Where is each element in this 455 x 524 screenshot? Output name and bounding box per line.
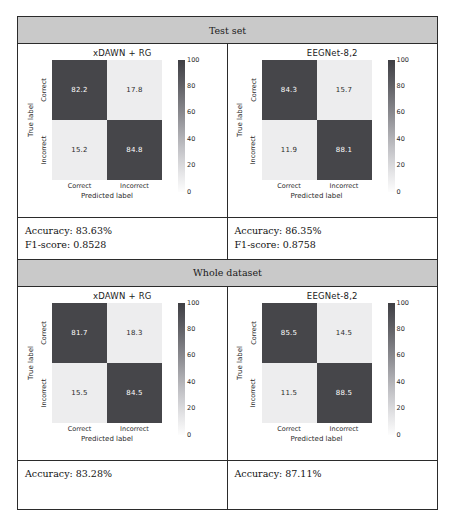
- accuracy-text-2: Accuracy: 83.28%: [25, 467, 220, 481]
- y-tick-1: Incorrect: [250, 136, 258, 165]
- colorbar-tick-labels-2: 100 80 60 40 20 0: [187, 298, 213, 440]
- x-axis-label-1: Predicted label: [262, 192, 372, 200]
- accuracy-text-0: Accuracy: 83.63%: [25, 224, 220, 238]
- colorbar-tick-60-2: 60: [187, 350, 195, 360]
- y-axis-label-3: True label: [234, 303, 248, 423]
- y-axis-label-2: True label: [24, 303, 38, 423]
- heatmap-cell-2-0-0: 81.7: [52, 303, 107, 363]
- heatmap-cell-2-1-0: 15.5: [52, 363, 107, 423]
- colorbar-tick-100-2: 100: [187, 298, 199, 308]
- metrics-row-whole-dataset: Accuracy: 83.28% Accuracy: 87.11%: [18, 461, 437, 509]
- heatmap-cell-3-0-0: 85.5: [262, 303, 317, 363]
- heatmap-cell-0-1-0: 15.2: [52, 120, 107, 180]
- plot-title-1: EEGNet-8,2: [272, 48, 394, 58]
- heatmap-cell-3-0-1: 14.5: [317, 303, 372, 363]
- colorbar-gradient-0: [178, 60, 185, 192]
- confusion-matrix-panel-1: EEGNet-8,2 True label Correct Incorrect …: [228, 44, 438, 217]
- colorbar-tick-100-0: 100: [187, 55, 199, 65]
- confusion-matrix-figure-3: EEGNet-8,2 True label Correct Incorrect …: [228, 287, 438, 460]
- colorbar-tick-80-3: 80: [397, 324, 405, 334]
- colorbar-tick-60-1: 60: [397, 107, 405, 117]
- heatmap-cell-1-0-1: 15.7: [317, 60, 372, 120]
- colorbar-tick-20-1: 20: [397, 160, 405, 170]
- accuracy-text-1: Accuracy: 86.35%: [235, 224, 431, 238]
- y-tick-0: Correct: [40, 321, 48, 345]
- colorbar-tick-80-2: 80: [187, 324, 195, 334]
- y-tick-labels-3: Correct Incorrect: [247, 303, 261, 423]
- f1-score-text-1: F1-score: 0.8758: [235, 238, 431, 252]
- colorbar-tick-20-3: 20: [397, 403, 405, 413]
- plot-title-2: xDAWN + RG: [62, 291, 183, 301]
- y-axis-label-0: True label: [24, 60, 38, 180]
- colorbar-gradient-2: [178, 303, 185, 435]
- plot-title-0: xDAWN + RG: [62, 48, 183, 58]
- y-axis-label-1: True label: [234, 60, 248, 180]
- heatmap-cell-1-0-0: 84.3: [262, 60, 317, 120]
- plot-row-whole-dataset: xDAWN + RG True label Correct Incorrect …: [18, 287, 437, 461]
- colorbar-gradient-1: [388, 60, 395, 192]
- metrics-cell-0: Accuracy: 83.63% F1-score: 0.8528: [18, 218, 228, 259]
- colorbar-tick-100-1: 100: [397, 55, 409, 65]
- confusion-matrix-figure-1: EEGNet-8,2 True label Correct Incorrect …: [228, 44, 438, 217]
- y-tick-0: Correct: [40, 78, 48, 102]
- confusion-matrix-figure-2: xDAWN + RG True label Correct Incorrect …: [18, 287, 227, 460]
- heatmap-cell-0-0-0: 82.2: [52, 60, 107, 120]
- heatmap-cell-2-1-1: 84.5: [107, 363, 162, 423]
- heatmap-cell-0-0-1: 17.8: [107, 60, 162, 120]
- heatmap-cell-3-1-1: 88.5: [317, 363, 372, 423]
- colorbar-tick-labels-3: 100 80 60 40 20 0: [397, 298, 423, 440]
- heatmap-cell-1-1-0: 11.9: [262, 120, 317, 180]
- heatmap-cell-0-1-1: 84.8: [107, 120, 162, 180]
- confusion-matrix-panel-2: xDAWN + RG True label Correct Incorrect …: [18, 287, 228, 460]
- x-axis-label-3: Predicted label: [262, 435, 372, 443]
- heatmap-grid-0: 82.2 17.8 15.2 84.8: [52, 60, 162, 180]
- colorbar-tick-labels-0: 100 80 60 40 20 0: [187, 55, 213, 197]
- confusion-matrix-panel-3: EEGNet-8,2 True label Correct Incorrect …: [228, 287, 438, 460]
- colorbar-tick-0-0: 0: [187, 187, 191, 197]
- colorbar-tick-80-0: 80: [187, 81, 195, 91]
- colorbar-tick-40-0: 40: [187, 134, 195, 144]
- y-tick-1: Incorrect: [40, 378, 48, 407]
- y-tick-1: Incorrect: [40, 136, 48, 165]
- heatmap-cell-1-1-1: 88.1: [317, 120, 372, 180]
- results-table: Test set xDAWN + RG True label Correct I…: [17, 16, 438, 510]
- metrics-row-test-set: Accuracy: 83.63% F1-score: 0.8528 Accura…: [18, 218, 437, 260]
- heatmap-grid-3: 85.5 14.5 11.5 88.5: [262, 303, 372, 423]
- metrics-cell-1: Accuracy: 86.35% F1-score: 0.8758: [228, 218, 438, 259]
- y-tick-0: Correct: [250, 321, 258, 345]
- y-tick-labels-1: Correct Incorrect: [247, 60, 261, 180]
- y-tick-labels-2: Correct Incorrect: [37, 303, 51, 423]
- colorbar-tick-labels-1: 100 80 60 40 20 0: [397, 55, 423, 197]
- colorbar-tick-40-1: 40: [397, 134, 405, 144]
- colorbar-tick-100-3: 100: [397, 298, 409, 308]
- colorbar-gradient-3: [388, 303, 395, 435]
- confusion-matrix-figure-0: xDAWN + RG True label Correct Incorrect …: [18, 44, 227, 217]
- heatmap-grid-1: 84.3 15.7 11.9 88.1: [262, 60, 372, 180]
- colorbar-tick-20-2: 20: [187, 403, 195, 413]
- colorbar-tick-60-3: 60: [397, 350, 405, 360]
- plot-row-test-set: xDAWN + RG True label Correct Incorrect …: [18, 44, 437, 218]
- section-header-test-set: Test set: [18, 17, 437, 44]
- metrics-cell-2: Accuracy: 83.28%: [18, 461, 228, 509]
- accuracy-text-3: Accuracy: 87.11%: [235, 467, 431, 481]
- colorbar-tick-0-2: 0: [187, 430, 191, 440]
- colorbar-tick-0-1: 0: [397, 187, 401, 197]
- colorbar-tick-60-0: 60: [187, 107, 195, 117]
- heatmap-grid-2: 81.7 18.3 15.5 84.5: [52, 303, 162, 423]
- colorbar-tick-40-2: 40: [187, 377, 195, 387]
- colorbar-tick-40-3: 40: [397, 377, 405, 387]
- x-axis-label-2: Predicted label: [52, 435, 162, 443]
- y-tick-0: Correct: [250, 78, 258, 102]
- metrics-cell-3: Accuracy: 87.11%: [228, 461, 438, 509]
- colorbar-tick-0-3: 0: [397, 430, 401, 440]
- figure-page: Test set xDAWN + RG True label Correct I…: [0, 0, 455, 524]
- confusion-matrix-panel-0: xDAWN + RG True label Correct Incorrect …: [18, 44, 228, 217]
- section-header-whole-dataset: Whole dataset: [18, 260, 437, 287]
- x-axis-label-0: Predicted label: [52, 192, 162, 200]
- y-tick-1: Incorrect: [250, 378, 258, 407]
- y-tick-labels-0: Correct Incorrect: [37, 60, 51, 180]
- plot-title-3: EEGNet-8,2: [272, 291, 394, 301]
- heatmap-cell-2-0-1: 18.3: [107, 303, 162, 363]
- colorbar-tick-20-0: 20: [187, 160, 195, 170]
- heatmap-cell-3-1-0: 11.5: [262, 363, 317, 423]
